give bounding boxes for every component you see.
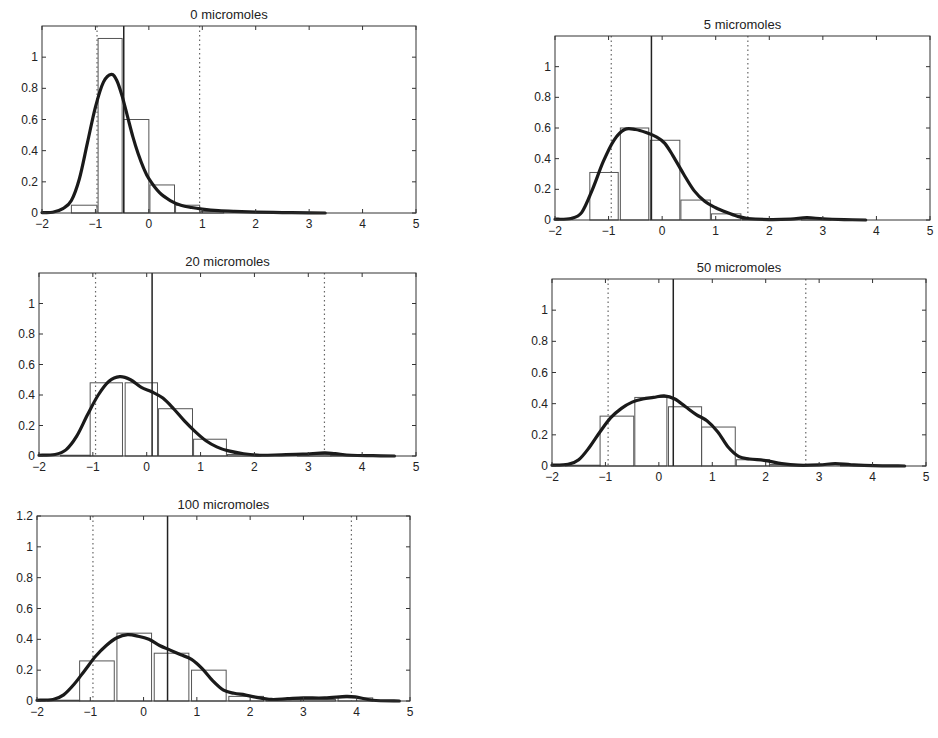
x-tick-label: 3 [306, 217, 313, 231]
y-tick-label: 0.6 [531, 366, 548, 380]
y-tick-label: 0.2 [534, 182, 551, 196]
x-tick-label: 1 [197, 460, 204, 474]
x-tick-label: 2 [247, 705, 254, 719]
y-tick-label: 0.2 [531, 428, 548, 442]
panel-title: 100 micromoles [37, 497, 410, 512]
x-tick-label: 5 [927, 224, 934, 238]
y-tick-label: 0 [544, 213, 551, 227]
y-tick-label: 0.2 [18, 419, 35, 433]
density-curve [552, 396, 905, 466]
density-curve [42, 74, 325, 213]
x-tick-label: 4 [359, 217, 366, 231]
histogram-bar [98, 38, 122, 213]
y-tick-label: 0.4 [16, 632, 33, 646]
histogram-bar [159, 409, 193, 456]
x-tick-label: 2 [762, 470, 769, 484]
y-tick-label: 0.2 [21, 175, 38, 189]
x-tick-label: 3 [300, 705, 307, 719]
x-tick-label: −1 [599, 470, 613, 484]
x-tick-label: 4 [359, 460, 366, 474]
x-tick-label: −1 [86, 460, 100, 474]
x-tick-label: 5 [413, 217, 420, 231]
panel-0-micromoles: 0 micromoles −2−101234500.20.40.60.81 [42, 26, 416, 213]
y-tick-label: 0.2 [16, 663, 33, 677]
x-tick-label: 1 [194, 705, 201, 719]
plot-area: −2−101234500.20.40.60.811.2 [37, 516, 410, 701]
y-tick-label: 1 [31, 50, 38, 64]
x-tick-label: 5 [413, 460, 420, 474]
histogram-bar [71, 205, 97, 213]
histogram-bars [71, 38, 223, 213]
x-tick-label: −1 [83, 705, 97, 719]
x-tick-label: 4 [869, 470, 876, 484]
y-tick-label: 1 [544, 60, 551, 74]
y-tick-label: 0.4 [21, 144, 38, 158]
histogram-bar [80, 661, 115, 701]
histogram-bar [154, 653, 189, 701]
histogram-bar [124, 120, 149, 214]
x-tick-label: 0 [659, 224, 666, 238]
x-tick-label: 5 [407, 705, 414, 719]
y-tick-label: 1.2 [16, 509, 33, 523]
x-tick-label: 4 [353, 705, 360, 719]
plot-area: −2−101234500.20.40.60.81 [552, 279, 926, 466]
histogram-bar [635, 397, 667, 466]
density-curve [37, 635, 399, 701]
y-tick-label: 0.4 [531, 397, 548, 411]
y-tick-label: 0.6 [21, 113, 38, 127]
x-tick-label: −1 [89, 217, 103, 231]
x-tick-label: 2 [252, 217, 259, 231]
plot-area: −2−101234500.20.40.60.81 [555, 36, 930, 220]
y-tick-label: 0.8 [16, 571, 33, 585]
x-tick-label: 5 [923, 470, 930, 484]
panel-50-micromoles: 50 micromoles −2−101234500.20.40.60.81 [552, 279, 926, 466]
y-tick-label: 0.6 [18, 358, 35, 372]
x-tick-label: −1 [602, 224, 616, 238]
panel-20-micromoles: 20 micromoles −2−101234500.20.40.60.81 [39, 273, 416, 456]
panel-title: 20 micromoles [39, 254, 416, 269]
y-tick-label: 0.8 [21, 81, 38, 95]
x-tick-label: 3 [816, 470, 823, 484]
y-tick-label: 0.4 [18, 388, 35, 402]
panel-title: 0 micromoles [42, 7, 416, 22]
y-tick-label: 1 [26, 540, 33, 554]
x-tick-label: 0 [656, 470, 663, 484]
plot-area: −2−101234500.20.40.60.81 [42, 26, 416, 213]
y-tick-label: 0.6 [534, 121, 551, 135]
y-tick-label: 0.6 [16, 602, 33, 616]
histogram-bar [150, 185, 175, 213]
x-tick-label: 3 [820, 224, 827, 238]
x-tick-label: 4 [873, 224, 880, 238]
x-tick-label: 3 [305, 460, 312, 474]
x-tick-label: 0 [140, 705, 147, 719]
x-tick-label: 1 [712, 224, 719, 238]
x-tick-label: 0 [146, 217, 153, 231]
y-tick-label: 1 [28, 297, 35, 311]
x-tick-label: 1 [199, 217, 206, 231]
x-tick-label: 1 [709, 470, 716, 484]
histogram-bar [650, 140, 679, 220]
y-tick-label: 0 [31, 206, 38, 220]
plot-area: −2−101234500.20.40.60.81 [39, 273, 416, 456]
x-tick-label: 0 [143, 460, 150, 474]
y-tick-label: 0.8 [534, 90, 551, 104]
y-tick-label: 0 [541, 459, 548, 473]
panel-title: 5 micromoles [555, 17, 930, 32]
y-tick-label: 1 [541, 303, 548, 317]
x-tick-label: 2 [251, 460, 258, 474]
panel-100-micromoles: 100 micromoles −2−101234500.20.40.60.811… [37, 516, 410, 701]
histogram-bar [620, 128, 648, 220]
panel-5-micromoles: 5 micromoles −2−101234500.20.40.60.81 [555, 36, 930, 220]
histogram-bar [590, 172, 618, 220]
density-curve [555, 129, 866, 220]
y-tick-label: 0 [26, 694, 33, 708]
histogram-bars [48, 633, 373, 701]
y-tick-label: 0.8 [531, 334, 548, 348]
density-curve [39, 377, 394, 456]
x-tick-label: 2 [766, 224, 773, 238]
y-tick-label: 0.8 [18, 327, 35, 341]
panel-title: 50 micromoles [552, 260, 926, 275]
y-tick-label: 0.4 [534, 152, 551, 166]
y-tick-label: 0 [28, 449, 35, 463]
histogram-bar [117, 633, 152, 701]
